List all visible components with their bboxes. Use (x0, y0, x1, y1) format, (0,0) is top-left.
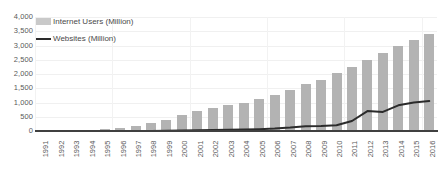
x-axis-tick-text: 1994 (89, 141, 97, 158)
x-axis-tick-label: 2005 (251, 133, 266, 173)
x-axis-tick-label: 1993 (66, 133, 81, 173)
x-axis-tick-label: 2015 (406, 133, 421, 173)
x-axis-tick-label: 2014 (391, 133, 406, 173)
x-axis: 1991199219931994199519961997199819992000… (35, 133, 437, 175)
x-axis-tick-label: 2002 (205, 133, 220, 173)
x-axis-tick-text: 1995 (104, 141, 112, 158)
y-axis-tick-label: 3,000 (1, 42, 33, 50)
x-axis-tick-text: 2013 (382, 141, 390, 158)
x-axis-tick-label: 1999 (159, 133, 174, 173)
x-axis-tick-text: 2012 (367, 141, 375, 158)
x-axis-tick-text: 1997 (135, 141, 143, 158)
x-axis-tick-text: 2011 (351, 141, 359, 157)
x-axis-tick-label: 1991 (35, 133, 50, 173)
y-axis-tick-label: 500 (1, 113, 33, 121)
y-axis-tick-label: 1,500 (1, 84, 33, 92)
x-axis-tick-text: 2009 (321, 141, 329, 158)
bar-swatch-icon (36, 18, 51, 25)
x-axis-tick-text: 1992 (58, 141, 66, 158)
x-axis-tick-text: 1998 (150, 141, 158, 158)
x-axis-tick-label: 1992 (50, 133, 65, 173)
x-axis-tick-label: 2006 (267, 133, 282, 173)
websites-line-path (43, 101, 430, 131)
x-axis-tick-label: 2016 (422, 133, 437, 173)
x-axis-tick-label: 2013 (375, 133, 390, 173)
y-axis-tick-label: 1,000 (1, 99, 33, 107)
x-axis-tick-label: 1997 (128, 133, 143, 173)
x-axis-tick-label: 1998 (143, 133, 158, 173)
x-axis-tick-label: 2007 (282, 133, 297, 173)
x-axis-tick-text: 2001 (197, 141, 205, 158)
legend-label-websites: Websites (Million) (53, 34, 116, 43)
x-axis-tick-text: 2014 (398, 141, 406, 158)
x-axis-tick-text: 1999 (166, 141, 174, 158)
x-axis-tick-text: 2003 (228, 141, 236, 158)
x-axis-tick-text: 1991 (42, 141, 50, 158)
y-axis-tick-label: 2,000 (1, 70, 33, 78)
x-axis-tick-text: 2015 (413, 141, 421, 158)
x-axis-tick-label: 2011 (344, 133, 359, 173)
y-axis-tick-label: 0 (1, 127, 33, 135)
x-axis-tick-label: 2010 (329, 133, 344, 173)
x-axis-tick-label: 1995 (97, 133, 112, 173)
x-axis-tick-label: 2003 (221, 133, 236, 173)
legend-entry-internet-users: Internet Users (Million) (36, 13, 166, 30)
y-axis-tick-label: 3,500 (1, 27, 33, 35)
x-axis-tick-text: 2002 (212, 141, 220, 158)
x-axis-tick-label: 2008 (298, 133, 313, 173)
x-axis-tick-text: 1996 (120, 141, 128, 158)
legend-label-internet-users: Internet Users (Million) (53, 17, 133, 26)
x-axis-tick-text: 1993 (73, 141, 81, 158)
x-axis-tick-label: 1994 (81, 133, 96, 173)
x-axis-tick-label: 2009 (313, 133, 328, 173)
x-axis-tick-text: 2005 (259, 141, 267, 158)
x-axis-tick-text: 2007 (290, 141, 298, 158)
x-axis-baseline (35, 130, 438, 132)
line-swatch-icon (36, 38, 51, 40)
y-axis-tick-label: 2,500 (1, 56, 33, 64)
x-axis-tick-text: 2016 (429, 141, 437, 158)
y-axis-tick-label: 4,000 (1, 13, 33, 21)
x-axis-tick-text: 2006 (274, 141, 282, 158)
chart-legend: Internet Users (Million) Websites (Milli… (36, 13, 166, 47)
x-axis-tick-label: 1996 (112, 133, 127, 173)
x-axis-tick-label: 2012 (360, 133, 375, 173)
x-axis-tick-label: 2000 (174, 133, 189, 173)
x-axis-tick-text: 2004 (243, 141, 251, 158)
x-axis-tick-text: 2008 (305, 141, 313, 158)
x-axis-tick-text: 2000 (181, 141, 189, 158)
legend-entry-websites: Websites (Million) (36, 30, 166, 47)
chart-container: 05001,0001,5002,0002,5003,0003,5004,000 … (0, 0, 442, 175)
x-axis-tick-text: 2010 (336, 141, 344, 158)
x-axis-tick-label: 2001 (190, 133, 205, 173)
x-axis-tick-label: 2004 (236, 133, 251, 173)
y-axis: 05001,0001,5002,0002,5003,0003,5004,000 (0, 0, 33, 175)
